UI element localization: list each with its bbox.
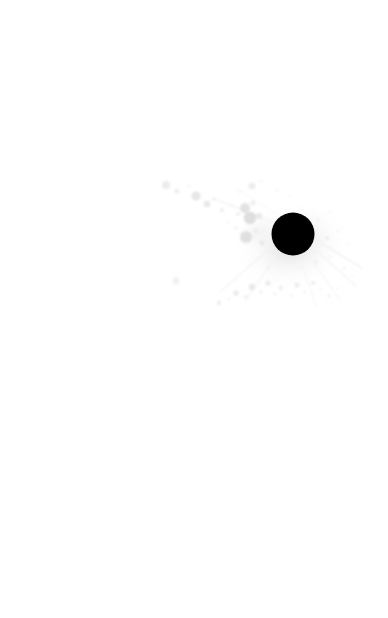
splatter-droplet (227, 221, 230, 224)
splatter-droplet (314, 260, 318, 264)
splatter-droplet (265, 280, 270, 285)
splatter-droplet (191, 191, 200, 200)
splatter-droplet (240, 231, 252, 243)
splatter-droplet (256, 213, 262, 219)
splatter-droplet (337, 287, 339, 289)
splatter-droplet (239, 191, 242, 194)
splatter-droplet (282, 271, 285, 274)
splatter-droplet (316, 218, 320, 222)
splatter-droplet (274, 293, 277, 296)
splatter-droplet (187, 184, 190, 187)
ink-scene (0, 0, 388, 618)
image-background (0, 0, 388, 618)
splatter-droplet (249, 284, 255, 290)
splatter-droplet (234, 226, 238, 230)
image-canvas: A single solid black circular ink blot s… (0, 0, 388, 618)
ink-blot (272, 213, 315, 256)
splatter-droplet (295, 283, 300, 288)
splatter-droplet (290, 295, 293, 298)
splatter-droplet (320, 288, 323, 291)
splatter-droplet (259, 240, 265, 246)
splatter-droplet (342, 266, 345, 269)
splatter-droplet (248, 182, 255, 189)
splatter-droplet (329, 211, 331, 213)
splatter-droplet (227, 297, 230, 300)
splatter-droplet (240, 203, 250, 213)
splatter-droplet (279, 286, 283, 290)
splatter-droplet (303, 290, 306, 293)
splatter-droplet (259, 290, 263, 294)
splatter-droplet (220, 208, 224, 212)
splatter-droplet (325, 236, 329, 240)
splatter-droplet (244, 295, 248, 299)
splatter-droplet (254, 229, 258, 233)
splatter-droplet (174, 188, 179, 193)
splatter-droplet (266, 266, 269, 269)
splatter-droplet (347, 244, 350, 247)
splatter-droplet (204, 201, 211, 208)
splatter-droplet (276, 189, 279, 192)
splatter-droplet (337, 230, 340, 233)
splatter-droplet (244, 212, 256, 224)
splatter-droplet (251, 201, 256, 206)
splatter-droplet (212, 197, 216, 201)
splatter-droplet (329, 256, 332, 259)
splatter-droplet (300, 267, 303, 270)
splatter-droplet (217, 301, 222, 306)
splatter-droplet (162, 181, 170, 189)
splatter-droplet (236, 212, 240, 216)
splatter-droplet (288, 195, 290, 197)
splatter-droplet (259, 179, 262, 182)
splatter-droplet (311, 281, 315, 285)
splatter-droplet (233, 290, 239, 296)
splatter-droplet (173, 278, 180, 285)
splatter-droplet (230, 204, 233, 207)
splatter-droplet (327, 294, 331, 298)
splatter-droplet (351, 275, 353, 277)
